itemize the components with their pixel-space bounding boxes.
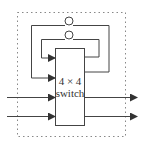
switch-diagram: 4 × 4 switch <box>0 0 144 145</box>
inner-delay-node-icon <box>65 31 73 39</box>
outer-delay-node-icon <box>65 17 73 25</box>
switch-label: switch <box>56 87 85 99</box>
switch-size-label: 4 × 4 <box>59 75 82 87</box>
